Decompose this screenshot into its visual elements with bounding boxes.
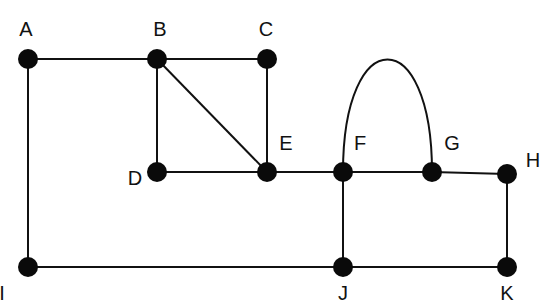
node-label-k: K (500, 282, 514, 304)
node-f (333, 162, 353, 182)
node-j (333, 257, 353, 277)
node-a (18, 49, 38, 69)
node-label-b: B (153, 18, 166, 40)
node-label-e: E (279, 132, 292, 154)
node-label-g: G (444, 132, 460, 154)
edge-F-G-arc (343, 60, 432, 173)
node-e (257, 162, 277, 182)
node-d (147, 162, 167, 182)
node-label-c: C (259, 18, 273, 40)
node-b (147, 49, 167, 69)
edge-B-E (157, 59, 267, 172)
node-label-f: F (354, 132, 366, 154)
node-label-j: J (338, 282, 348, 304)
node-c (257, 49, 277, 69)
node-label-h: H (526, 149, 540, 171)
node-label-a: A (19, 18, 33, 40)
node-label-d: D (128, 167, 142, 189)
graph-diagram: ABCDEFGHIJK (0, 0, 543, 307)
edge-G-H (432, 172, 507, 174)
node-k (497, 257, 517, 277)
node-label-i: I (0, 282, 5, 304)
node-i (18, 257, 38, 277)
node-h (497, 164, 517, 184)
node-g (422, 162, 442, 182)
